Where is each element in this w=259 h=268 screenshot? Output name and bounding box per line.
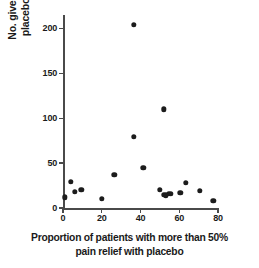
y-tick-mark xyxy=(59,28,64,29)
y-axis-title: No. given placebo xyxy=(6,0,31,72)
data-point xyxy=(183,180,188,185)
y-tick-label: 0 xyxy=(52,204,57,213)
data-point xyxy=(79,187,84,192)
x-tick-label: 0 xyxy=(61,214,66,223)
data-point xyxy=(161,107,166,112)
data-point xyxy=(72,189,77,194)
plot-area: 050100150200 020406080 xyxy=(63,15,218,208)
data-point xyxy=(178,190,183,195)
data-point xyxy=(210,198,215,203)
x-tick-mark xyxy=(140,208,141,213)
y-axis-line xyxy=(63,15,65,208)
scatter-plot-figure: No. given placebo 050100150200 020406080… xyxy=(0,0,259,268)
x-tick-label: 80 xyxy=(213,214,223,223)
x-tick-mark xyxy=(62,208,63,213)
data-point xyxy=(168,191,173,196)
x-tick-mark xyxy=(179,208,180,213)
y-tick-mark xyxy=(59,73,64,74)
x-tick-label: 60 xyxy=(174,214,184,223)
data-point xyxy=(112,172,117,177)
y-tick-label: 50 xyxy=(47,159,57,168)
data-point xyxy=(62,195,67,200)
x-tick-mark xyxy=(217,208,218,213)
data-point xyxy=(99,196,104,201)
data-point xyxy=(131,22,136,27)
x-axis-title-line2: pain relief with placebo xyxy=(0,245,259,259)
y-axis-title-line1: No. given xyxy=(6,0,19,72)
y-tick-label: 100 xyxy=(43,114,57,123)
x-axis-title: Proportion of patients with more than 50… xyxy=(0,231,259,258)
x-tick-label: 20 xyxy=(97,214,107,223)
x-tick-label: 40 xyxy=(136,214,146,223)
data-point xyxy=(197,188,202,193)
y-tick-mark xyxy=(59,162,64,163)
y-tick-mark xyxy=(59,118,64,119)
data-point xyxy=(141,165,146,170)
y-tick-label: 200 xyxy=(43,24,57,33)
x-axis-title-line1: Proportion of patients with more than 50… xyxy=(0,231,259,245)
data-point xyxy=(68,179,73,184)
y-tick-label: 150 xyxy=(43,69,57,78)
data-point xyxy=(131,134,136,139)
y-axis-title-line2: placebo xyxy=(19,0,32,72)
x-tick-mark xyxy=(101,208,102,213)
